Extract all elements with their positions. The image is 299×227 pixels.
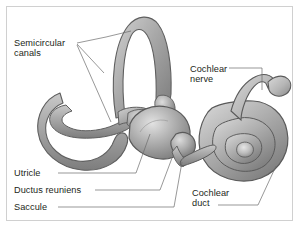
label-saccule: Saccule	[14, 202, 47, 212]
label-semicircular-canals: Semicircular canals	[14, 38, 65, 59]
vestibule-structure	[129, 106, 195, 159]
cochlea-apex	[237, 142, 254, 157]
label-ductus-reuniens: Ductus reuniens	[14, 185, 81, 195]
nerve-branch	[268, 76, 291, 96]
label-cochlear-duct: Cochlear duct	[192, 188, 229, 209]
leader-posterior-canal	[77, 45, 111, 122]
label-cochlear-nerve: Cochlear nerve	[190, 64, 227, 85]
label-utricle: Utricle	[14, 168, 40, 178]
inner-ear-diagram: Semicircular canals Cochlear nerve Utric…	[0, 0, 299, 227]
leader-lateral-canal	[77, 44, 104, 73]
